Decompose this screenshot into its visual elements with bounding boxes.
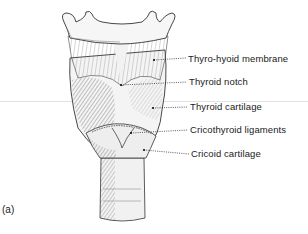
hyoid-bone bbox=[62, 11, 175, 44]
label-thyroid-cartilage: Thyroid cartilage bbox=[190, 101, 262, 112]
panel-label: (a) bbox=[2, 204, 14, 215]
larynx-illustration bbox=[0, 0, 308, 234]
label-thyrohyoid-membrane: Thyro-hyoid membrane bbox=[188, 53, 288, 64]
label-cricothyroid-ligaments: Cricothyroid ligaments bbox=[190, 124, 286, 135]
label-thyroid-notch: Thyroid notch bbox=[189, 76, 248, 87]
larynx-figure: Thyro-hyoid membrane Thyroid notch Thyro… bbox=[0, 0, 308, 234]
label-cricoid-cartilage: Cricoid cartilage bbox=[191, 148, 261, 159]
trachea bbox=[100, 158, 145, 221]
